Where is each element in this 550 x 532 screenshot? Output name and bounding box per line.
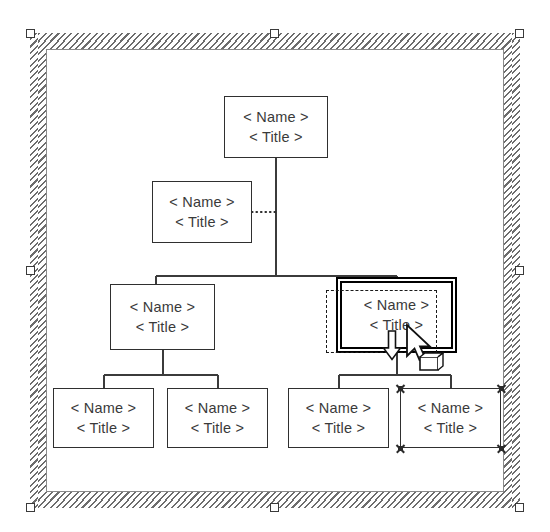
- node-title: < Title >: [175, 212, 228, 232]
- handle-bottom-left[interactable]: [26, 503, 35, 512]
- handle-middle-right[interactable]: [515, 266, 524, 275]
- org-node-subordinate-3[interactable]: < Name > < Title >: [288, 388, 389, 448]
- mouse-cursor-drag-icon: [405, 323, 449, 375]
- node-name: < Name >: [243, 107, 308, 127]
- node-name: < Name >: [418, 398, 483, 418]
- node-title: < Title >: [249, 127, 302, 147]
- node-name: < Name >: [169, 192, 234, 212]
- handle-top-center[interactable]: [270, 29, 279, 38]
- handle-top-left[interactable]: [26, 29, 35, 38]
- node-name: < Name >: [185, 398, 250, 418]
- handle-bottom-right[interactable]: [515, 503, 524, 512]
- handle-top-right[interactable]: [515, 29, 524, 38]
- handle-bottom-center[interactable]: [270, 503, 279, 512]
- org-node-subordinate-4[interactable]: < Name > < Title >: [400, 388, 501, 448]
- x-handle-bottom-left[interactable]: [395, 443, 406, 454]
- org-node-root[interactable]: < Name > < Title >: [224, 96, 328, 158]
- drop-indicator-down-arrow-icon: [382, 330, 402, 362]
- x-handle-bottom-right[interactable]: [496, 443, 507, 454]
- org-node-subordinate-1[interactable]: < Name > < Title >: [53, 388, 154, 448]
- x-handle-top-left[interactable]: [395, 383, 406, 394]
- node-title: < Title >: [424, 418, 477, 438]
- node-title: < Title >: [191, 418, 244, 438]
- screenshot-root: < Name > < Title > < Name > < Title > < …: [0, 0, 550, 532]
- node-name: < Name >: [71, 398, 136, 418]
- x-handle-top-right[interactable]: [496, 383, 507, 394]
- node-title: < Title >: [312, 418, 365, 438]
- org-node-manager-left[interactable]: < Name > < Title >: [110, 284, 215, 350]
- node-name: < Name >: [306, 398, 371, 418]
- node-title: < Title >: [136, 317, 189, 337]
- org-node-assistant[interactable]: < Name > < Title >: [152, 181, 252, 243]
- org-node-subordinate-2[interactable]: < Name > < Title >: [167, 388, 268, 448]
- handle-middle-left[interactable]: [26, 266, 35, 275]
- node-title: < Title >: [77, 418, 130, 438]
- node-name: < Name >: [130, 297, 195, 317]
